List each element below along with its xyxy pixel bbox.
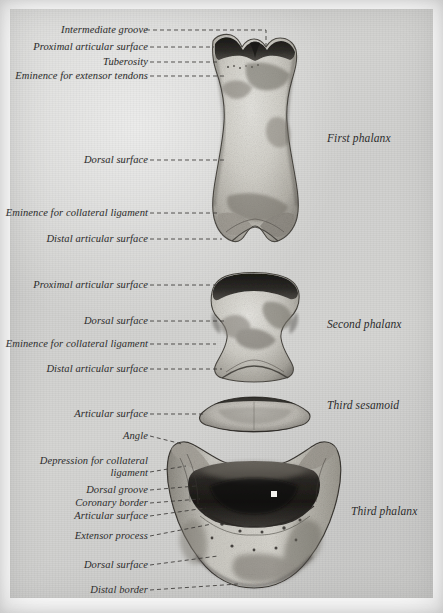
label-coronary-border: Coronary border	[0, 497, 148, 509]
label-distal-articular-surface-2: Distal articular surface	[0, 363, 148, 375]
label-first-phalanx: First phalanx	[327, 132, 391, 145]
label-articular-surface-sesamoid: Articular surface	[0, 408, 148, 420]
anatomical-plate: Intermediate groove Proximal articular s…	[0, 0, 443, 613]
label-eminence-for-collateral-ligament-1: Eminence for collateral ligament	[0, 207, 148, 219]
label-tuberosity: Tuberosity	[0, 56, 148, 68]
label-third-sesamoid: Third sesamoid	[327, 399, 399, 412]
label-proximal-articular-surface-2: Proximal articular surface	[0, 279, 148, 291]
label-third-phalanx: Third phalanx	[351, 505, 417, 518]
label-distal-border: Distal border	[0, 584, 148, 596]
label-dorsal-surface-3: Dorsal surface	[0, 559, 148, 571]
label-depression-for-collateral-ligament: Depression for collateral ligament	[0, 455, 148, 479]
label-proximal-articular-surface-1: Proximal articular surface	[0, 41, 148, 53]
label-dorsal-surface-2: Dorsal surface	[0, 315, 148, 327]
label-eminence-for-extensor-tendons: Eminence for extensor tendons	[0, 70, 148, 82]
label-second-phalanx: Second phalanx	[327, 318, 402, 331]
label-eminence-for-collateral-ligament-2: Eminence for collateral ligament	[0, 338, 148, 350]
label-angle: Angle	[0, 430, 148, 442]
label-extensor-process: Extensor process	[0, 530, 148, 542]
label-articular-surface-third-phalanx: Articular surface	[0, 510, 148, 522]
label-distal-articular-surface-1: Distal articular surface	[0, 233, 148, 245]
label-dorsal-groove: Dorsal groove	[0, 484, 148, 496]
label-intermediate-groove: Intermediate groove	[0, 24, 148, 36]
label-dorsal-surface-1: Dorsal surface	[0, 154, 148, 166]
